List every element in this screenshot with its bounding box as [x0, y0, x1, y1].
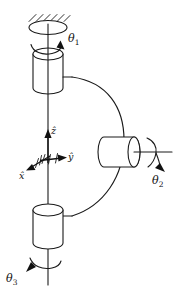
lower-link-cylinder: [33, 204, 63, 249]
theta2-symbol: θ: [152, 174, 159, 187]
theta2-label: θ2: [152, 175, 163, 189]
theta2-rotation-arrow: [147, 138, 165, 172]
theta3-rotation-arrow: [26, 258, 61, 272]
body-fixed-coordinate-frame: [26, 129, 67, 171]
robot-kinematic-diagram: θ1 θ2 θ3 ẑ ŷ x̂: [0, 0, 180, 301]
x-axis-arrow: [26, 155, 50, 171]
z-axis-label: ẑ: [51, 126, 56, 136]
diagram-canvas: [0, 0, 180, 301]
theta2-subscript: 2: [159, 180, 164, 189]
theta1-subscript: 1: [75, 38, 80, 47]
theta3-label: θ3: [6, 273, 17, 287]
theta3-subscript: 3: [13, 278, 18, 287]
y-axis-label: ŷ: [68, 152, 73, 162]
theta1-symbol: θ: [68, 32, 75, 45]
theta1-label: θ1: [68, 33, 79, 47]
x-axis-label: x̂: [19, 171, 24, 181]
theta3-symbol: θ: [6, 272, 13, 285]
